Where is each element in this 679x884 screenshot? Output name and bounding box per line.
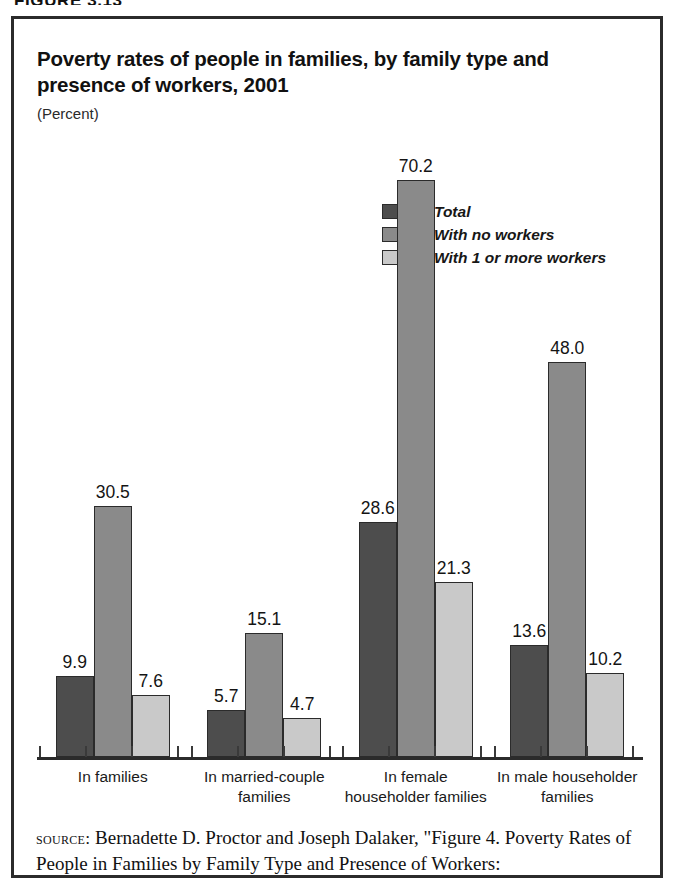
axis-tick (85, 746, 87, 757)
bar-value-label: 21.3 (437, 558, 471, 579)
bar-column[interactable]: 10.2 (586, 139, 624, 757)
category-label: In married-couple families (189, 767, 341, 807)
bar[interactable] (510, 645, 548, 757)
bar[interactable] (548, 362, 586, 757)
bar[interactable] (359, 522, 397, 757)
axis-tick (540, 746, 542, 757)
chart-title: Poverty rates of people in families, by … (37, 46, 617, 98)
axis-tick (237, 746, 239, 757)
axis-tick (434, 746, 436, 757)
bar-value-label: 30.5 (96, 482, 130, 503)
bar-column[interactable]: 70.2 (397, 139, 435, 757)
axis-tick (39, 746, 41, 757)
bar-group: 5.715.14.7 (189, 139, 341, 757)
bar[interactable] (207, 710, 245, 757)
bar-value-label: 7.6 (139, 671, 163, 692)
bar-group: 9.930.57.6 (37, 139, 189, 757)
bar-value-label: 15.1 (247, 609, 281, 630)
bar-value-label: 70.2 (399, 156, 433, 177)
category-label: In female householder families (340, 767, 492, 807)
bar-group: 13.648.010.2 (492, 139, 644, 757)
bar-column[interactable]: 7.6 (132, 139, 170, 757)
category-labels: In familiesIn married-couple familiesIn … (37, 767, 643, 807)
bar-column[interactable]: 30.5 (94, 139, 132, 757)
axis-tick (191, 746, 193, 757)
bar[interactable] (94, 506, 132, 757)
source-divider (14, 818, 660, 819)
bar-groups: 9.930.57.65.715.14.728.670.221.313.648.0… (37, 139, 643, 757)
bar-column[interactable]: 9.9 (56, 139, 94, 757)
bar[interactable] (435, 582, 473, 757)
bar-value-label: 10.2 (588, 649, 622, 670)
bar[interactable] (397, 180, 435, 757)
source-text: Bernadette D. Proctor and Joseph Dalaker… (36, 827, 631, 874)
bar[interactable] (56, 676, 94, 757)
bar-value-label: 13.6 (512, 621, 546, 642)
category-label: In families (37, 767, 189, 807)
figure-frame: Poverty rates of people in families, by … (11, 16, 663, 878)
axis-tick (131, 746, 133, 757)
bar-value-label: 5.7 (214, 686, 238, 707)
bar-value-label: 9.9 (63, 652, 87, 673)
bar[interactable] (245, 633, 283, 757)
bar-value-label: 4.7 (290, 694, 314, 715)
chart-pane: Poverty rates of people in families, by … (14, 19, 660, 818)
bar[interactable] (283, 718, 321, 757)
axis-tick (283, 746, 285, 757)
bar-column[interactable]: 28.6 (359, 139, 397, 757)
category-label: In male householder families (492, 767, 644, 807)
axis-tick (586, 746, 588, 757)
source-label: source: (36, 828, 90, 848)
bar-column[interactable]: 13.6 (510, 139, 548, 757)
axis-tick (329, 746, 331, 757)
bar-column[interactable]: 48.0 (548, 139, 586, 757)
chart-subtitle: (Percent) (37, 105, 99, 122)
figure-caption: FIGURE 3.13 (14, 0, 123, 5)
axis-tick (388, 746, 390, 757)
axis-tick (342, 746, 344, 757)
bar-value-label: 28.6 (361, 498, 395, 519)
bar-group: 28.670.221.3 (340, 139, 492, 757)
bar-column[interactable]: 5.7 (207, 139, 245, 757)
axis-tick (632, 746, 634, 757)
bar[interactable] (586, 673, 624, 757)
bar-column[interactable]: 15.1 (245, 139, 283, 757)
bar[interactable] (132, 695, 170, 757)
axis-tick (177, 746, 179, 757)
axis-tick (494, 746, 496, 757)
axis-tick (480, 746, 482, 757)
bar-column[interactable]: 21.3 (435, 139, 473, 757)
bar-value-label: 48.0 (550, 338, 584, 359)
plot-area: 9.930.57.65.715.14.728.670.221.313.648.0… (37, 139, 643, 760)
source-note: source: Bernadette D. Proctor and Joseph… (36, 825, 636, 876)
bar-column[interactable]: 4.7 (283, 139, 321, 757)
x-axis-line (37, 757, 643, 760)
